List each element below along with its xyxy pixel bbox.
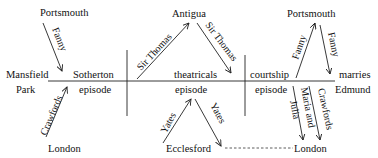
place-london-left: London (48, 143, 81, 154)
episode-sotherton: Sotherton (73, 69, 115, 80)
label-julia: Julia (288, 99, 303, 120)
label-fanny-down: Fanny (326, 31, 342, 58)
place-park: Park (16, 84, 36, 95)
label-maria-and: Maria and (299, 86, 318, 128)
label-yates-up: Yates (158, 110, 178, 134)
place-portsmouth-left: Portsmouth (40, 7, 89, 18)
episode-courtship: courtship (250, 69, 289, 80)
outcome-edmund: Edmund (335, 84, 371, 95)
label-sir-thomas-up: Sir Thomas (134, 31, 174, 72)
episode-theatricals: theatricals (174, 69, 217, 80)
place-antigua: Antigua (172, 8, 206, 19)
label-crawfords-left: Crawfords (38, 94, 65, 137)
episode-sotherton-sub: episode (79, 84, 111, 95)
label-yates-down: Yates (208, 101, 228, 125)
place-ecclesford: Ecclesford (166, 143, 212, 154)
place-mansfield: Mansfield (6, 69, 49, 80)
label-crawfords-right: Crawfords (316, 87, 336, 131)
label-sir-thomas-down: Sir Thomas (203, 20, 240, 64)
mansfield-park-structure-diagram: Portsmouth Fanny Mansfield Park Sotherto… (0, 0, 378, 158)
place-london-right: London (294, 143, 327, 154)
episode-theatricals-sub: episode (175, 84, 207, 95)
place-portsmouth-right: Portsmouth (287, 8, 336, 19)
outcome-marries: marries (339, 69, 371, 80)
episode-courtship-sub: episode (255, 84, 287, 95)
label-fanny-up: Fanny (289, 33, 308, 60)
